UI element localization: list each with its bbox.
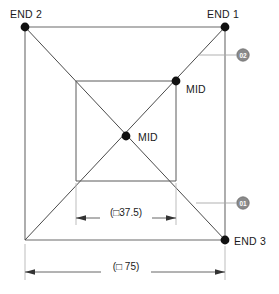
callout-bubble-01[interactable]: 01: [237, 197, 249, 209]
node-dot-end3[interactable]: [221, 236, 230, 245]
arrowhead-inner-right: [166, 215, 176, 221]
callout-bubble-02[interactable]: 02: [237, 49, 249, 61]
node-dot-end1[interactable]: [221, 23, 230, 32]
node-label-mid-center: MID: [138, 131, 158, 143]
inner-square-frame: [76, 81, 176, 181]
technical-drawing-page: { "drawing": { "title": "Square cross-se…: [0, 0, 279, 294]
bubble-leader-lines: [196, 55, 236, 203]
node-label-end3: END 3: [234, 235, 266, 247]
arrowhead-inner-left: [76, 215, 86, 221]
technical-drawing-canvas: (□37.5) (□ 75) END 2 END 1 END 3 MID MID…: [0, 0, 279, 294]
bubble-label-02: 02: [239, 52, 247, 59]
node-dot-mid-outer[interactable]: [172, 77, 181, 86]
node-label-mid-outer: MID: [186, 83, 206, 95]
node-dot-end2[interactable]: [21, 23, 30, 32]
dimension-inner-width: (□37.5): [76, 206, 176, 221]
bubble-label-01: 01: [239, 200, 247, 207]
node-label-end1: END 1: [207, 8, 239, 20]
dimension-outer-label: (□ 75): [113, 261, 140, 272]
arrowhead-outer-right: [215, 269, 225, 275]
dimension-inner-label: (□37.5): [110, 207, 142, 218]
dimension-outer-width: (□ 75): [25, 260, 225, 275]
arrowhead-outer-left: [25, 269, 35, 275]
node-label-end2: END 2: [10, 8, 42, 20]
node-dot-mid-center[interactable]: [122, 132, 131, 141]
